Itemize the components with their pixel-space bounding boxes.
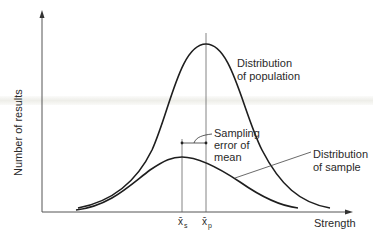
population-mean-symbol: x̄ [202,216,207,227]
population-label-line1: Distribution [237,57,292,69]
sample-curve [76,157,298,210]
y-axis-label: Number of results [12,89,24,176]
distribution-diagram: Number of results Strength Distribution … [0,0,373,237]
population-mean-marker: x̄ p [202,216,212,230]
x-axis-label: Strength [314,217,356,229]
x-axis-arrow-icon [345,210,353,215]
sample-label-line1: Distribution [313,148,368,160]
sample-label-leader [235,152,311,178]
sample-mean-marker: x̄ s [178,216,188,229]
sampling-error-label-line3: mean [214,151,242,163]
sampling-error-bar [181,134,212,144]
sampling-error-leader [194,134,212,143]
y-axis-arrow-icon [40,10,45,18]
sample-label-line2: of sample [313,161,361,173]
axes [40,10,354,215]
population-label-line2: of population [237,70,300,82]
sampling-error-label-line2: error of [214,139,250,151]
population-mean-subscript: p [208,222,212,230]
sample-mean-subscript: s [184,222,188,229]
sampling-error-label-line1: Sampling [214,127,260,139]
sample-mean-symbol: x̄ [178,216,183,227]
population-curve [78,44,330,208]
